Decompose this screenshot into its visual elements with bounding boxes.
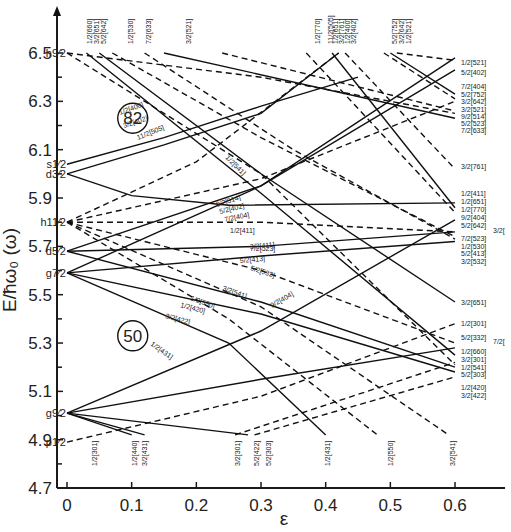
bottom-label-1-2-431: 1/2[431] <box>324 441 332 466</box>
inline-label-1-2-411: 1/2[411] <box>230 227 255 235</box>
right-label-1-2-411: 1/2[411] <box>461 190 486 198</box>
level-7-2-523 <box>67 222 455 232</box>
y-tick-label: 6.1 <box>28 141 52 160</box>
top-label-1-2-530: 1/2[530] <box>127 19 135 44</box>
shell-label-g7-2: g7⁄2 <box>46 267 66 279</box>
bottom-orbital-labels: 1/2[301]1/2[440]3/2[431]3/2[301]5/2[422]… <box>91 441 457 466</box>
right-label-7-2-404: 7/2[404] <box>461 83 486 91</box>
x-tick-label: 0.5 <box>379 496 403 515</box>
shell-label-h11-2: h11⁄2 <box>41 216 67 228</box>
top-label-7-2-633: 7/2[633] <box>145 19 153 44</box>
x-tick-label: 0.2 <box>185 496 209 515</box>
y-tick-label: 5.3 <box>28 334 52 353</box>
right-label-5-2-303: 5/2[303] <box>461 371 486 379</box>
nilsson-diagram: 4.74.95.15.35.55.75.96.16.36.5 00.10.20.… <box>0 0 511 532</box>
shell-label-h9-2: h9⁄2 <box>46 47 66 59</box>
top-label-5-2-642: 5/2[642] <box>100 19 108 44</box>
bottom-label-5-2-422: 5/2[422] <box>253 441 261 466</box>
inline-label-9-2-404: 9/2[404] <box>269 290 295 310</box>
level-5-2-532 <box>67 222 455 343</box>
bottom-label-3-2-431: 3/2[431] <box>141 441 149 466</box>
bottom-label-3-2-541: 3/2[541] <box>449 441 457 466</box>
level-1-2-651 <box>332 53 455 208</box>
right-label-1-2-770: 1/2[770] <box>461 206 486 214</box>
right-label-5-2-402: 5/2[402] <box>461 69 486 77</box>
inline-label-3-2-422: 3/2[422] <box>164 312 191 326</box>
level-5-2-303 <box>255 377 456 435</box>
right-label-7-2-523: 7/2[523] <box>461 235 486 243</box>
y-tick-label: 5.1 <box>28 382 52 401</box>
bottom-label-3-2-301: 3/2[301] <box>234 441 242 466</box>
bottom-label-1-2-550: 1/2[550] <box>387 441 395 466</box>
right-label-1-2-651: 1/2[651] <box>461 198 486 206</box>
right-label-9-2-404: 9/2[404] <box>461 214 486 222</box>
x-axis-label: ε <box>280 508 289 529</box>
bottom-label-1-2-440: 1/2[440] <box>131 441 139 466</box>
y-axis-label: E/ħω₀ (ω) <box>0 228 20 312</box>
right-label-3-2-532: 3/2[532] <box>461 258 486 266</box>
level-3-2-431 <box>67 413 145 435</box>
right-label-3-2-301: 3/2[301] <box>461 356 486 364</box>
right-label-1-2-521: 1/2[521] <box>461 59 486 67</box>
y-tick-label: 4.7 <box>28 479 52 498</box>
level-5-2-422 <box>67 413 248 435</box>
right-label-3-2: 3/2[ <box>493 227 505 235</box>
right-label-1-2-301: 1/2[301] <box>461 320 486 328</box>
right-label-3-2-651: 3/2[651] <box>461 299 486 307</box>
magic-number-50: 50 <box>123 327 142 346</box>
top-label-1-2-770: 1/2[770] <box>314 19 322 44</box>
right-label-7-2: 7/2[ <box>493 338 505 346</box>
level-1-2-411 <box>67 174 455 206</box>
level-1-2-770 <box>306 53 455 213</box>
level-1-2-521 <box>397 53 455 60</box>
level-3-2-642 <box>390 53 455 94</box>
right-label-1-2-660: 1/2[660] <box>461 348 486 356</box>
right-label-5-2-413: 5/2[413] <box>461 250 486 258</box>
level-11-2-505 <box>67 53 339 222</box>
magic-numbers: 8250 <box>118 103 148 351</box>
top-label-1-2-521: 1/2[521] <box>405 19 413 44</box>
inline-label-5-2-532: 5/2[532] <box>249 264 276 279</box>
y-tick-label: 6.3 <box>28 92 52 111</box>
top-label-3-2-402: 3/2[402] <box>350 19 358 44</box>
level-3-2-301 <box>235 362 455 435</box>
right-label-5-2-642: 5/2[642] <box>461 222 486 230</box>
top-orbital-labels: 1/2[660]3/2[651]5/2[642]1/2[530]7/2[633]… <box>86 15 413 44</box>
y-axis-arrow-icon <box>53 6 61 16</box>
level-3-2-761 <box>345 53 455 169</box>
x-tick-label: 0 <box>62 496 71 515</box>
right-label-3-2-642: 3/2[642] <box>461 98 486 106</box>
bottom-label-5-2-303: 5/2[303] <box>265 441 273 466</box>
shell-label-d3-2: d3⁄2 <box>46 168 66 180</box>
y-tick-label: 5.5 <box>28 286 52 305</box>
level-3-2-651 <box>99 53 455 302</box>
right-label-7-2-633: 7/2[633] <box>461 127 486 135</box>
right-orbital-labels: 1/2[521]5/2[402]7/2[404]5/2[752]3/2[642]… <box>461 59 505 400</box>
x-tick-label: 0.6 <box>443 496 467 515</box>
right-label-5-2-332: 5/2[332] <box>461 334 486 342</box>
x-ticks: 00.10.20.30.40.50.6 <box>62 482 467 515</box>
right-label-1-2-420: 1/2[420] <box>461 384 486 392</box>
top-label-3-2-521: 3/2[521] <box>185 19 193 44</box>
level-1-2-541 <box>67 53 455 365</box>
level-7-2-413 <box>67 348 455 413</box>
bottom-label-1-2-301: 1/2[301] <box>91 441 99 466</box>
shell-label-g9-2: g9⁄2 <box>46 407 66 419</box>
right-label-3-2-761: 3/2[761] <box>461 163 486 171</box>
y-tick-label: 5.9 <box>28 189 52 208</box>
inline-label-1-2-431: 1/2[431] <box>149 340 174 361</box>
x-tick-label: 0.4 <box>314 496 338 515</box>
shell-label-p1-2: p1⁄2 <box>46 436 66 448</box>
x-tick-label: 0.1 <box>120 496 144 515</box>
x-tick-label: 0.3 <box>249 496 273 515</box>
shell-label-d5-2: d5⁄2 <box>46 245 66 257</box>
right-label-3-2-422: 3/2[422] <box>461 392 486 400</box>
